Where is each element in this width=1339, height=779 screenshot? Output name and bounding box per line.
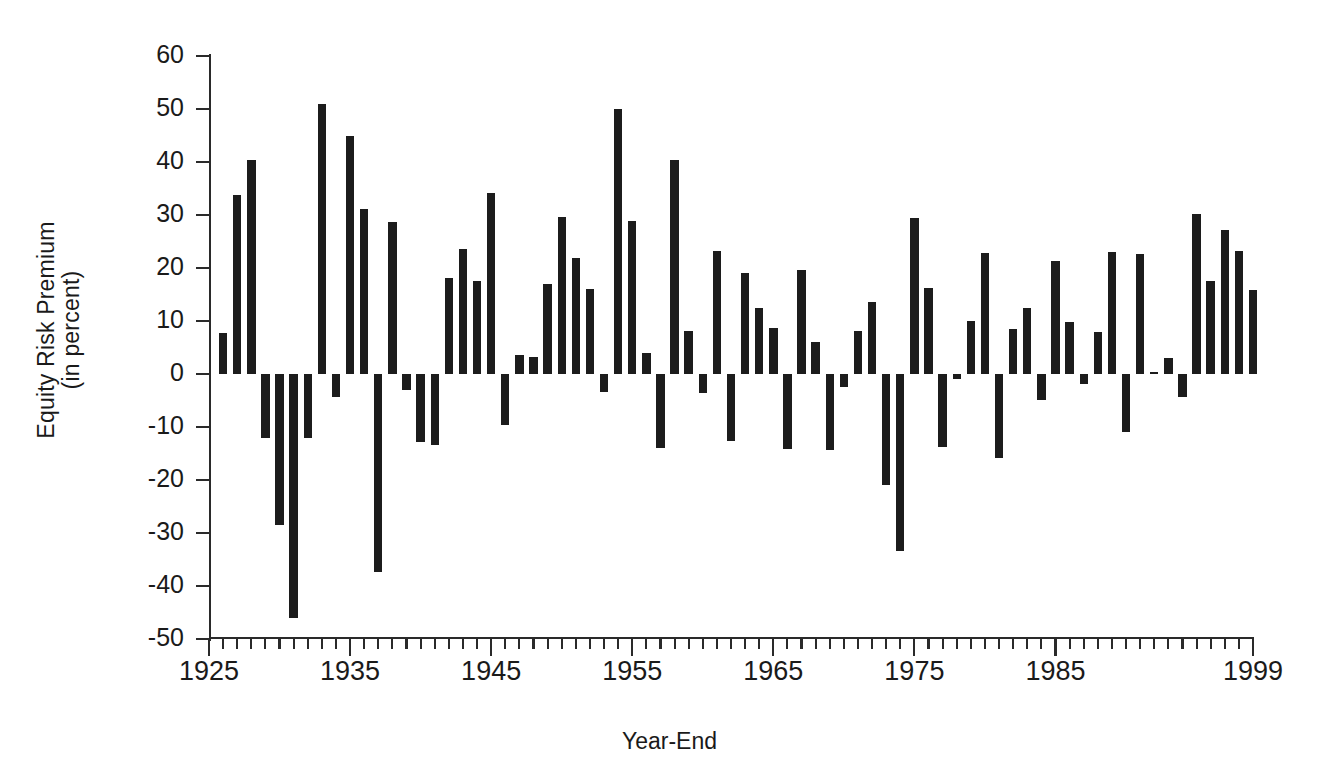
bar — [797, 270, 805, 374]
bar — [374, 374, 382, 572]
bar — [896, 374, 904, 551]
bar — [840, 374, 848, 387]
bar — [967, 321, 975, 374]
bar — [1080, 374, 1088, 384]
bar — [628, 221, 636, 374]
bar — [684, 331, 692, 374]
bar — [1150, 372, 1158, 374]
bar — [360, 209, 368, 374]
bar — [586, 289, 594, 374]
bar — [459, 249, 467, 374]
bar — [233, 195, 241, 374]
bar — [953, 374, 961, 379]
bar — [713, 251, 721, 374]
bar — [318, 104, 326, 374]
bar — [1249, 290, 1257, 374]
bar — [529, 357, 537, 374]
bar — [642, 353, 650, 374]
bar — [487, 193, 495, 374]
bar — [741, 273, 749, 374]
bar — [247, 160, 255, 374]
bar — [924, 288, 932, 374]
bar — [783, 374, 791, 449]
bar — [1136, 254, 1144, 374]
bar — [515, 355, 523, 374]
bar-series — [0, 0, 1339, 779]
bar — [473, 281, 481, 374]
bar — [1037, 374, 1045, 400]
bar — [1051, 261, 1059, 374]
bar — [1108, 252, 1116, 374]
bar — [261, 374, 269, 438]
bar — [854, 331, 862, 374]
equity-risk-premium-chart: Equity Risk Premium (in percent) 6050403… — [0, 0, 1339, 779]
bar — [332, 374, 340, 397]
bar — [416, 374, 424, 442]
bar — [501, 374, 509, 425]
bar — [614, 109, 622, 374]
bar — [431, 374, 439, 445]
bar — [219, 333, 227, 374]
bar — [1094, 332, 1102, 374]
bar — [826, 374, 834, 450]
bar — [275, 374, 283, 525]
bar — [558, 217, 566, 374]
bar — [670, 160, 678, 374]
bar — [1235, 251, 1243, 374]
bar — [1009, 329, 1017, 374]
bar — [445, 278, 453, 374]
bar — [995, 374, 1003, 458]
bar — [543, 284, 551, 374]
bar — [304, 374, 312, 438]
bar — [1206, 281, 1214, 374]
bar — [868, 302, 876, 374]
bar — [289, 374, 297, 618]
bar — [600, 374, 608, 392]
bar — [1023, 308, 1031, 374]
x-axis-label: Year-End — [0, 728, 1339, 755]
bar — [882, 374, 890, 485]
bar — [388, 222, 396, 374]
bar — [1178, 374, 1186, 397]
bar — [1221, 230, 1229, 374]
bar — [402, 374, 410, 390]
bar — [910, 218, 918, 374]
bar — [769, 328, 777, 374]
bar — [727, 374, 735, 441]
bar — [1122, 374, 1130, 432]
bar — [699, 374, 707, 393]
bar — [572, 258, 580, 374]
bar — [1164, 358, 1172, 374]
bar — [811, 342, 819, 374]
bar — [755, 308, 763, 374]
bar — [981, 253, 989, 374]
bar — [656, 374, 664, 448]
bar — [938, 374, 946, 447]
bar — [1065, 322, 1073, 374]
bar — [1192, 214, 1200, 374]
bar — [346, 136, 354, 375]
